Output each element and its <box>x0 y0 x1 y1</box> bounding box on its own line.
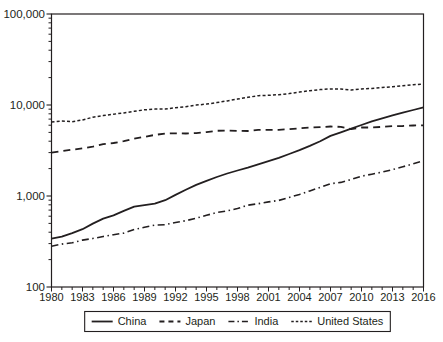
series-line-india <box>52 161 424 247</box>
x-axis-tick-label: 1989 <box>132 291 156 303</box>
legend: ChinaJapanIndiaUnited States <box>85 312 391 332</box>
legend-entry-united-states: United States <box>291 315 384 327</box>
y-axis-tick-label: 10,000 <box>10 99 45 111</box>
chart-figure: 1001,00010,000100,0001980198319861989199… <box>0 0 443 342</box>
x-axis-tick-label: 2013 <box>380 291 404 303</box>
gdp-line-chart: 1001,00010,000100,0001980198319861989199… <box>0 0 443 342</box>
legend-label: China <box>118 315 148 327</box>
x-axis-tick-label: 1998 <box>225 291 249 303</box>
legend-label: India <box>254 315 279 327</box>
series-line-japan <box>52 125 424 152</box>
legend-label: United States <box>317 315 384 327</box>
x-axis-tick-label: 2010 <box>349 291 373 303</box>
x-axis-tick-label: 2007 <box>318 291 342 303</box>
x-axis-tick-label: 1995 <box>194 291 218 303</box>
plot-border <box>52 14 424 287</box>
x-axis-tick-label: 2016 <box>411 291 435 303</box>
x-axis-tick-label: 2004 <box>287 291 311 303</box>
x-axis-tick-label: 1992 <box>163 291 187 303</box>
legend-entry-india: India <box>228 315 279 327</box>
series-line-united-states <box>52 84 424 122</box>
legend-label: Japan <box>185 315 215 327</box>
y-axis-tick-label: 1,000 <box>16 190 45 202</box>
x-axis-tick-label: 2001 <box>256 291 280 303</box>
y-axis-tick-label: 100,000 <box>3 8 45 20</box>
legend-entry-japan: Japan <box>159 315 215 327</box>
x-axis-tick-label: 1983 <box>70 291 94 303</box>
legend-entry-china: China <box>92 315 148 327</box>
x-axis-tick-label: 1980 <box>39 291 63 303</box>
x-axis-tick-label: 1986 <box>101 291 125 303</box>
